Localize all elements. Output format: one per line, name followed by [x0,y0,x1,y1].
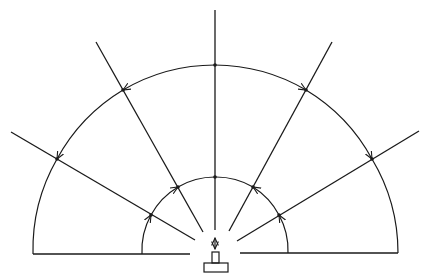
inner-arc-segment [253,187,279,215]
intersection-dot [121,88,125,92]
intersection-dot [55,157,59,161]
outer-arc-segment [306,90,372,159]
inner-arc-segment [215,177,253,187]
outer-arc-end [372,159,398,253]
outer-arc-segment [123,65,215,90]
wave-propagation-diagram [0,0,429,279]
intersection-dot [176,185,180,189]
inner-arc-segment [178,177,215,187]
outer-arc-end [33,159,57,254]
intersection-dot [370,157,374,161]
outer-arc-segment [215,65,306,90]
ray-upper-left [96,42,203,232]
ray-far-right [237,131,419,241]
intersection-dot [213,175,217,179]
intersection-dot [304,88,308,92]
inner-arc-segment [151,187,178,215]
intersection-dot [277,213,281,217]
intersection-dot [251,185,255,189]
rays [11,10,419,241]
diagram-canvas [0,0,429,279]
source-emitter [204,238,228,272]
intersection-dot [149,213,153,217]
intersection-dot [213,63,217,67]
baselines [33,253,398,254]
inner-arc-segment [279,215,288,253]
ray-far-left [11,132,195,240]
inner-arc-segment [142,215,151,254]
emitter-knob [212,252,219,263]
ray-upper-right [229,42,332,231]
outer-arc-segment [57,90,123,159]
emitter-base [204,263,228,272]
